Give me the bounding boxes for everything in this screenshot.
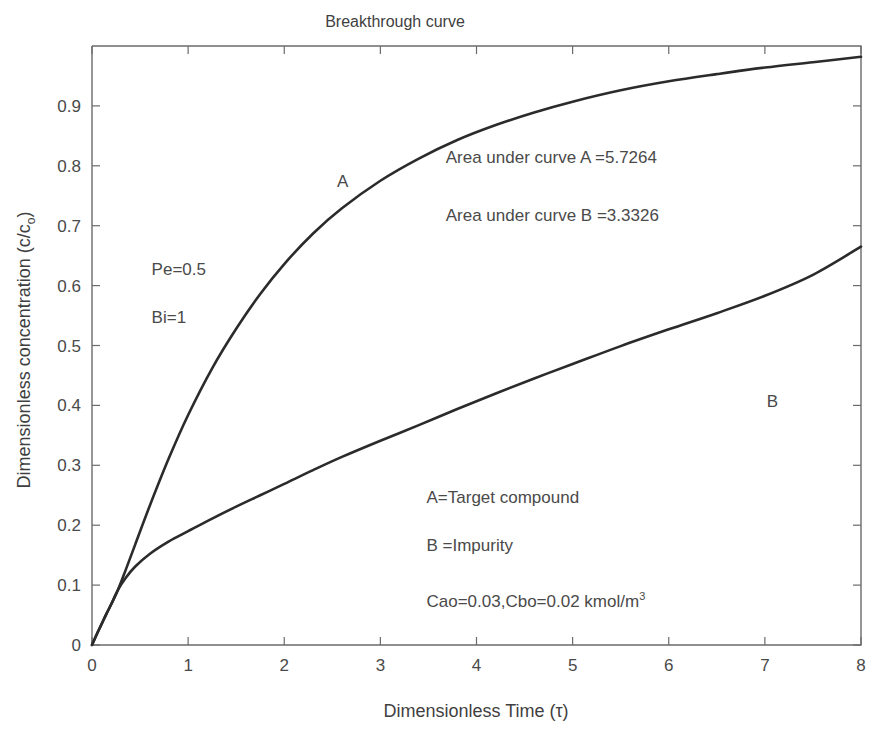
y-tick-label: 0.2 bbox=[57, 516, 81, 535]
x-tick-label: 1 bbox=[183, 656, 192, 675]
x-axis-ticks: 012345678 bbox=[87, 46, 865, 675]
chart-title: Breakthrough curve bbox=[325, 13, 465, 30]
bi: Bi=1 bbox=[152, 308, 187, 327]
chart-canvas: Breakthrough curve Dimensionless concent… bbox=[0, 0, 888, 734]
data-series-group bbox=[92, 57, 861, 645]
concentration-note-text: Cao=0.03,Cbo=0.02 kmol/m bbox=[427, 592, 640, 611]
y-axis-ticks: 00.10.20.30.40.50.60.70.80.9 bbox=[57, 97, 861, 655]
y-tick-label: 0.8 bbox=[57, 157, 81, 176]
x-tick-label: 6 bbox=[664, 656, 673, 675]
y-axis-title: Dimensionless concentration (c/co) bbox=[14, 212, 38, 489]
y-tick-label: 0.4 bbox=[57, 396, 81, 415]
curve-label-a: A bbox=[337, 172, 349, 191]
plot-frame bbox=[92, 46, 861, 645]
y-tick-label: 0.7 bbox=[57, 217, 81, 236]
legend-a: A=Target compound bbox=[427, 488, 580, 507]
y-axis-title-suffix: ) bbox=[14, 212, 34, 218]
x-tick-label: 0 bbox=[87, 656, 96, 675]
y-axis-title-prefix: Dimensionless concentration (c/c bbox=[14, 224, 34, 488]
concentration-note: Cao=0.03,Cbo=0.02 kmol/m3 bbox=[427, 590, 646, 611]
pe: Pe=0.5 bbox=[152, 260, 206, 279]
x-tick-label: 4 bbox=[472, 656, 481, 675]
chart-annotations: ABArea under curve A =5.7264Area under c… bbox=[152, 148, 779, 611]
y-tick-label: 0.3 bbox=[57, 456, 81, 475]
area-b: Area under curve B =3.3326 bbox=[446, 206, 659, 225]
y-tick-label: 0.6 bbox=[57, 277, 81, 296]
curve-label-b: B bbox=[767, 392, 778, 411]
x-tick-label: 5 bbox=[568, 656, 577, 675]
breakthrough-curve-figure: Breakthrough curve Dimensionless concent… bbox=[0, 0, 888, 734]
x-tick-label: 3 bbox=[376, 656, 385, 675]
concentration-note-superscript: 3 bbox=[639, 590, 645, 602]
y-tick-label: 0.1 bbox=[57, 576, 81, 595]
legend-b: B =Impurity bbox=[427, 536, 514, 555]
x-tick-label: 8 bbox=[856, 656, 865, 675]
y-tick-label: 0 bbox=[72, 636, 81, 655]
series-line-a bbox=[92, 57, 861, 645]
y-tick-label: 0.9 bbox=[57, 97, 81, 116]
y-tick-label: 0.5 bbox=[57, 337, 81, 356]
area-a: Area under curve A =5.7264 bbox=[446, 148, 657, 167]
x-tick-label: 2 bbox=[280, 656, 289, 675]
svg-text:Dimensionless concentration (c: Dimensionless concentration (c/co) bbox=[14, 212, 38, 489]
series-line-b bbox=[92, 247, 861, 645]
x-axis-title: Dimensionless Time (τ) bbox=[383, 701, 568, 721]
x-tick-label: 7 bbox=[760, 656, 769, 675]
